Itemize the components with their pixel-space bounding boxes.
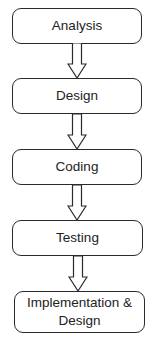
arrow-down-icon <box>68 256 88 292</box>
arrow-down-icon <box>67 114 87 150</box>
arrow-down-icon <box>67 185 87 221</box>
node-label: Implementation & Design <box>19 294 140 330</box>
node-implementation: Implementation & Design <box>14 291 145 333</box>
node-design: Design <box>12 78 142 114</box>
node-analysis: Analysis <box>12 8 142 44</box>
arrow-down-icon <box>67 43 87 79</box>
node-label: Testing <box>56 229 99 247</box>
node-label: Design <box>56 87 98 105</box>
node-label: Coding <box>56 158 99 176</box>
node-coding: Coding <box>12 149 142 185</box>
node-testing: Testing <box>12 220 143 256</box>
node-label: Analysis <box>52 17 102 35</box>
